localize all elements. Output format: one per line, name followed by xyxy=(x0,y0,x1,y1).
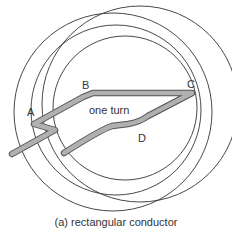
label-b: B xyxy=(82,80,89,91)
figure-caption: (a) rectangular conductor xyxy=(0,216,232,228)
diagram-canvas xyxy=(0,0,232,232)
label-c: C xyxy=(187,79,195,90)
label-one-turn: one turn xyxy=(89,105,129,116)
label-a: A xyxy=(27,107,34,118)
conductor-loop xyxy=(12,93,192,154)
label-d: D xyxy=(138,133,146,144)
